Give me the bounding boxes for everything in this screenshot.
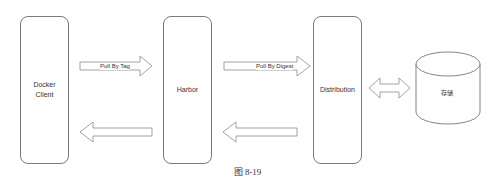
- arrow-left-icon: [80, 122, 152, 142]
- edge-label-pull-by-digest: Pull By Digest: [256, 63, 293, 70]
- arrow-left-icon: [223, 122, 297, 142]
- node-docker-client: Docker Client: [20, 16, 69, 164]
- node-label: Docker Client: [33, 80, 55, 100]
- edge-label-pull-by-tag: Pull By Tag: [100, 63, 130, 70]
- node-label: Distribution: [320, 85, 355, 95]
- node-storage-label: 存储: [441, 88, 453, 97]
- node-label: Harbor: [177, 85, 198, 95]
- arrow-bidirectional-icon: [369, 78, 410, 98]
- node-distribution: Distribution: [313, 16, 362, 164]
- node-harbor: Harbor: [163, 16, 212, 164]
- figure-caption: 图 8-19: [0, 165, 495, 178]
- arrows-layer: [0, 0, 495, 188]
